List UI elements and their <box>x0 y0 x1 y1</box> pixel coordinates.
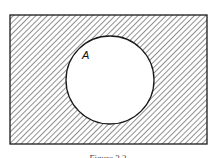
set-a-circle <box>66 36 154 124</box>
set-a-label: A <box>81 49 89 61</box>
venn-diagram: A Figure 3.2 <box>0 0 215 158</box>
figure-caption: Figure 3.2 <box>90 153 127 158</box>
